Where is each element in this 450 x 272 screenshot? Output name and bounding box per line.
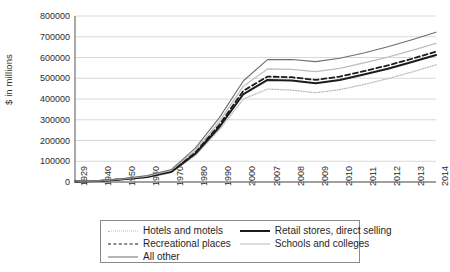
legend-line-icon (108, 226, 138, 235)
legend-line-icon (108, 252, 138, 261)
legend-item-label: All other (143, 250, 180, 263)
legend-line-icon (108, 239, 138, 248)
legend-item[interactable]: Recreational places (108, 237, 231, 250)
chart-legend: Hotels and motelsRetail stores, direct s… (100, 220, 360, 263)
series-line (75, 32, 436, 181)
legend-item-label: Retail stores, direct selling (275, 224, 392, 237)
series-line (75, 65, 436, 182)
legend-item[interactable]: Schools and colleges (240, 237, 392, 250)
figure-caption (0, 264, 446, 272)
legend-item[interactable]: All other (108, 250, 231, 263)
series-line (75, 55, 436, 182)
legend-item[interactable]: Hotels and motels (108, 224, 231, 237)
legend-item-label: Recreational places (143, 237, 231, 250)
legend-line-icon (240, 239, 270, 248)
legend-item[interactable]: Retail stores, direct selling (240, 224, 392, 237)
legend-line-icon (240, 226, 270, 235)
series-line (75, 43, 436, 181)
legend-item-label: Schools and colleges (275, 237, 370, 250)
legend-item-label: Hotels and motels (143, 224, 223, 237)
